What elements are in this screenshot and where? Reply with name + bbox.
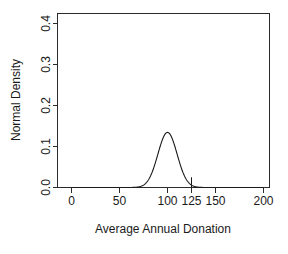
y-tick-label-0: 0.0 (39, 179, 53, 196)
x-tick-label-200: 200 (253, 194, 273, 208)
y-tick-label-4: 0.4 (39, 15, 53, 32)
plot-frame (58, 14, 270, 188)
normal-density-curve (72, 132, 264, 187)
x-axis-title: Average Annual Donation (95, 222, 231, 236)
x-tick-label-50: 50 (113, 194, 127, 208)
x-tick-label-100: 100 (157, 194, 177, 208)
y-axis-ticks (53, 24, 58, 188)
x-axis-ticks (72, 188, 264, 193)
chart-figure: 0.0 0.1 0.2 0.3 0.4 Normal Density 0 50 … (0, 0, 288, 254)
y-tick-label-3: 0.3 (39, 56, 53, 73)
x-tick-label-0: 0 (68, 194, 75, 208)
x-tick-label-125: 125 (181, 194, 201, 208)
y-axis-tick-labels: 0.0 0.1 0.2 0.3 0.4 (39, 15, 53, 196)
y-tick-label-1: 0.1 (39, 138, 53, 155)
x-axis-tick-labels: 0 50 100 125 150 200 (68, 194, 274, 208)
normal-density-plot: 0.0 0.1 0.2 0.3 0.4 Normal Density 0 50 … (0, 0, 288, 254)
y-axis-title: Normal Density (9, 59, 23, 141)
y-tick-label-2: 0.2 (39, 97, 53, 114)
x-tick-label-150: 150 (205, 194, 225, 208)
